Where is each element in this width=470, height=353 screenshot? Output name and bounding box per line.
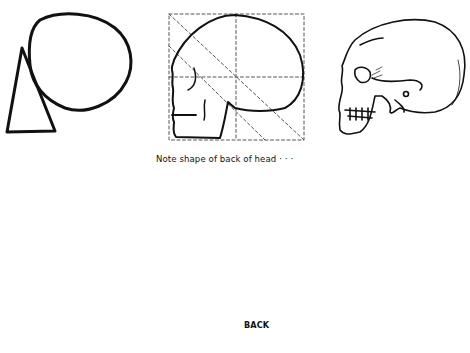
panel-skull-profile-box [169, 14, 304, 140]
caption-note: Note shape of back of head · · · [156, 153, 293, 164]
label-back: BACK [244, 320, 269, 330]
panel-skull-profile-detailed [339, 20, 465, 134]
panel-circle-triangle [7, 14, 131, 132]
anatomy-drawing-sheet [0, 0, 470, 353]
